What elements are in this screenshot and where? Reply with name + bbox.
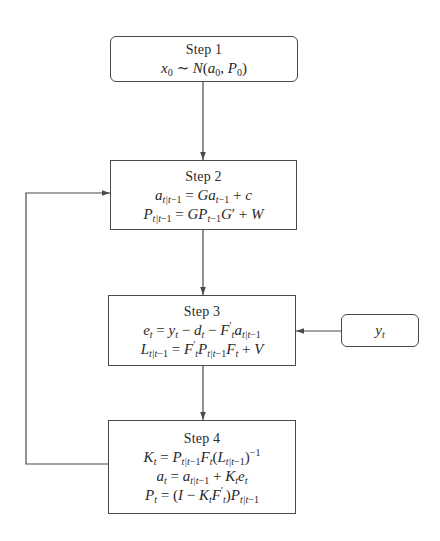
step4-equation-p: Pt = (I − KtF′t)Pt|t−1 bbox=[145, 486, 259, 505]
step3-title: Step 3 bbox=[184, 302, 221, 321]
step3-equation-l: Lt|t−1 = F′tPt|t−1Ft + V bbox=[141, 340, 264, 359]
step3-equation-e: et = yt − dt − F′tat|t−1 bbox=[143, 321, 261, 340]
step2-title: Step 2 bbox=[185, 167, 222, 186]
node-input-yt: yt bbox=[341, 314, 419, 347]
step1-equation: x0 ∼ N(a0, P0) bbox=[161, 59, 247, 78]
node-step4: Step 4 Kt = Pt|t−1Ft(Lt|t−1)−1 at = at|t… bbox=[108, 420, 296, 514]
step2-equation-p: Pt|t−1 = GPt−1G′ + W bbox=[143, 205, 263, 224]
step4-equation-a: at = at|t−1 + Ktet bbox=[157, 467, 248, 486]
step2-equation-a: at|t−1 = Gat−1 + c bbox=[155, 186, 252, 205]
step1-title: Step 1 bbox=[186, 40, 223, 59]
node-step2: Step 2 at|t−1 = Gat−1 + c Pt|t−1 = GPt−1… bbox=[110, 160, 297, 230]
edge-feedback-step4-step2 bbox=[26, 193, 110, 464]
node-step3: Step 3 et = yt − dt − F′tat|t−1 Lt|t−1 =… bbox=[108, 295, 296, 366]
input-yt-label: yt bbox=[375, 321, 384, 340]
step4-title: Step 4 bbox=[184, 429, 221, 448]
step4-equation-k: Kt = Pt|t−1Ft(Lt|t−1)−1 bbox=[144, 448, 261, 467]
node-step1: Step 1 x0 ∼ N(a0, P0) bbox=[110, 36, 298, 82]
